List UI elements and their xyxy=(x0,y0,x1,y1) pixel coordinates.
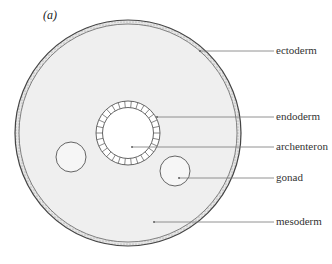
gonad-left xyxy=(56,142,86,172)
endoderm-ring xyxy=(96,101,160,165)
label-ectoderm: ectoderm xyxy=(276,44,317,56)
panel-label: (a) xyxy=(43,8,57,23)
label-archenteron: archenteron xyxy=(276,140,328,152)
label-mesoderm: mesoderm xyxy=(276,215,322,227)
label-gonad: gonad xyxy=(276,171,303,183)
cross-section-diagram: (a) ectoderm endoderm archenteron gonad … xyxy=(0,0,332,264)
gonad-right xyxy=(160,156,190,186)
label-endoderm: endoderm xyxy=(276,110,320,122)
